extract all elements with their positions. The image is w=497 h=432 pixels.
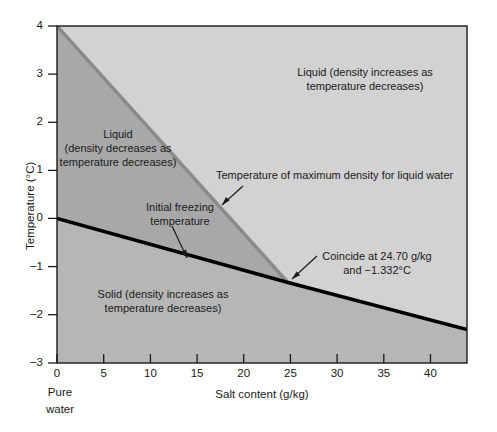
y-tick-label-neg2: −2 — [14, 308, 43, 322]
label-liquid-upper-line1: Liquid (density increases as — [297, 66, 433, 79]
x-tick-label-15: 15 — [191, 367, 204, 381]
x-tick-label-0: 0 — [54, 367, 60, 381]
y-tick-label-neg1: −1 — [14, 260, 43, 274]
annotation-coincide-line1: Coincide at 24.70 g/kg — [322, 250, 431, 263]
region-solid-density-increases — [57, 363, 467, 389]
x-tick-label-10: 10 — [144, 367, 157, 381]
annotation-max-density: Temperature of maximum density for liqui… — [216, 169, 453, 182]
x-tick-label-35: 35 — [377, 367, 390, 381]
annotation-coincide-line2: and −1.332°C — [343, 264, 411, 277]
y-tick-label-1: 1 — [14, 163, 43, 177]
x-axis-title: Salt content (g/kg) — [215, 388, 308, 402]
phase-diagram-figure: Temperature (°C) 4 3 2 1 0 −1 −2 −3 0 5 … — [0, 0, 497, 432]
annotation-freezing-line2: temperature — [150, 215, 209, 228]
label-solid-line1: Solid (density increases as — [98, 288, 229, 301]
label-liquid-left-line1: Liquid — [103, 128, 132, 141]
y-tick-label-0: 0 — [14, 211, 43, 225]
label-liquid-left-line3: temperature decreases) — [60, 156, 177, 169]
label-solid-line2: temperature decreases) — [105, 302, 222, 315]
y-tick-label-4: 4 — [14, 19, 43, 33]
origin-note-line2: water — [46, 403, 74, 417]
y-tick-label-neg3: −3 — [14, 356, 43, 370]
y-tick-label-2: 2 — [14, 115, 43, 129]
y-tick-label-3: 3 — [14, 67, 43, 81]
x-tick-label-20: 20 — [237, 367, 250, 381]
x-tick-label-40: 40 — [424, 367, 437, 381]
label-liquid-upper-line2: temperature decreases) — [307, 80, 424, 93]
annotation-freezing-line1: Initial freezing — [146, 201, 214, 214]
x-tick-label-25: 25 — [284, 367, 297, 381]
x-tick-label-30: 30 — [331, 367, 344, 381]
y-axis-ticks — [48, 26, 57, 363]
origin-note-line1: Pure — [48, 386, 72, 400]
label-liquid-left-line2: (density decreases as — [65, 142, 172, 155]
x-tick-label-5: 5 — [100, 367, 106, 381]
